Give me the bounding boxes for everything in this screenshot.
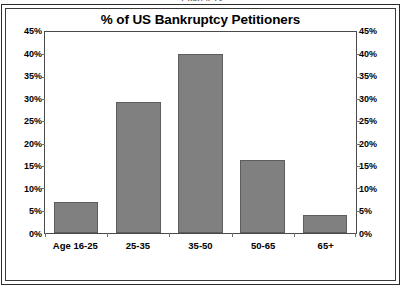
- chart-inner-frame: % of US Bankruptcy Petitioners 45%40%35%…: [5, 8, 396, 281]
- bar[interactable]: [116, 102, 161, 233]
- x-axis-category-label: 35-50: [169, 240, 232, 251]
- y-axis-tick-label: 20%: [8, 139, 42, 148]
- bar[interactable]: [240, 160, 285, 233]
- x-axis-tick-mark: [107, 233, 108, 237]
- plot-wrapper: 45%40%35%30%25%20%15%10%5%0% 45%40%35%30…: [6, 31, 395, 280]
- y-axis-tick-label: 10%: [8, 184, 42, 193]
- y-axis-tick-mark: [356, 77, 360, 78]
- bar[interactable]: [303, 215, 348, 233]
- y-axis-tick-mark: [41, 77, 45, 78]
- x-axis-category-label: 65+: [294, 240, 357, 251]
- y-axis-tick-mark: [356, 121, 360, 122]
- chart-outer-frame: % of US Bankruptcy Petitioners 45%40%35%…: [1, 4, 400, 285]
- y-axis-tick-label: 35%: [8, 72, 42, 81]
- y-axis-tick-label: 45%: [8, 27, 42, 36]
- bar-slot: [45, 32, 107, 233]
- x-axis-tick-mark: [232, 233, 233, 237]
- y-axis-tick-mark: [41, 144, 45, 145]
- y-axis-tick-label: 15%: [8, 162, 42, 171]
- y-axis-tick-mark: [41, 211, 45, 212]
- y-axis-tick-label: 5%: [8, 207, 42, 216]
- y-axis-tick-label: 0%: [359, 230, 393, 239]
- plot-area: [44, 31, 357, 234]
- bar[interactable]: [178, 54, 223, 233]
- y-axis-tick-label: 40%: [8, 49, 42, 58]
- y-axis-tick-mark: [356, 54, 360, 55]
- y-axis-tick-mark: [356, 99, 360, 100]
- x-axis-category-label: 25-35: [107, 240, 170, 251]
- y-axis-tick-mark: [41, 188, 45, 189]
- y-axis-tick-mark: [41, 54, 45, 55]
- y-axis-tick-mark: [356, 211, 360, 212]
- bar-series: [45, 32, 356, 233]
- y-axis-tick-mark: [356, 144, 360, 145]
- y-axis-tick-label: 20%: [359, 139, 393, 148]
- x-axis-tick-mark: [45, 233, 46, 237]
- bar-slot: [232, 32, 294, 233]
- x-axis-tick-mark: [294, 233, 295, 237]
- bar-slot: [294, 32, 356, 233]
- y-axis-tick-label: 40%: [359, 49, 393, 58]
- y-axis-tick-mark: [41, 121, 45, 122]
- x-axis-tick-mark: [169, 233, 170, 237]
- y-axis-tick-label: 5%: [359, 207, 393, 216]
- y-axis-tick-label: 35%: [359, 72, 393, 81]
- y-axis-tick-label: 15%: [359, 162, 393, 171]
- y-axis-tick-mark: [356, 166, 360, 167]
- y-axis-tick-mark: [356, 188, 360, 189]
- x-axis-category-label: 50-65: [232, 240, 295, 251]
- y-axis-left: 45%40%35%30%25%20%15%10%5%0%: [8, 31, 42, 234]
- y-axis-tick-label: 25%: [8, 117, 42, 126]
- x-axis-tick-mark: [355, 233, 356, 237]
- y-axis-tick-label: 25%: [359, 117, 393, 126]
- bar[interactable]: [54, 202, 99, 233]
- x-axis-category-labels: Age 16-2525-3535-5050-6565+: [44, 240, 357, 251]
- chart-title: % of US Bankruptcy Petitioners: [6, 12, 395, 27]
- y-axis-tick-mark: [41, 166, 45, 167]
- bar-slot: [107, 32, 169, 233]
- y-axis-tick-label: 45%: [359, 27, 393, 36]
- clipped-header-caption: Chart 4-13: [0, 0, 404, 1]
- y-axis-right: 45%40%35%30%25%20%15%10%5%0%: [359, 31, 393, 234]
- bar-slot: [169, 32, 231, 233]
- y-axis-tick-label: 10%: [359, 184, 393, 193]
- y-axis-tick-label: 0%: [8, 230, 42, 239]
- y-axis-tick-label: 30%: [359, 94, 393, 103]
- y-axis-tick-label: 30%: [8, 94, 42, 103]
- x-axis-category-label: Age 16-25: [44, 240, 107, 251]
- y-axis-tick-mark: [41, 99, 45, 100]
